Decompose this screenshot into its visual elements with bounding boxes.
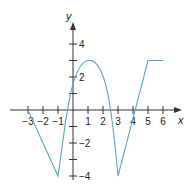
x-tick-label: 6 xyxy=(160,116,166,127)
y-tick-label: 4 xyxy=(79,39,85,50)
x-axis-label: x xyxy=(177,114,184,126)
x-tick-label: 2 xyxy=(100,116,106,127)
y-axis-label: y xyxy=(65,10,73,22)
y-tick-label: 2 xyxy=(79,72,85,83)
x-tick-label: 3 xyxy=(115,116,121,127)
y-tick-label: −4 xyxy=(79,171,91,182)
x-tick-label: −2 xyxy=(37,116,49,127)
x-axis-arrow-icon xyxy=(174,107,182,113)
y-tick-label: −2 xyxy=(79,138,91,149)
x-tick-label: −3 xyxy=(22,116,34,127)
y-axis-arrow-icon xyxy=(70,22,76,30)
x-tick-label: −1 xyxy=(52,116,64,127)
x-ticks: −3−2−1123456 xyxy=(22,106,166,127)
x-tick-label: 1 xyxy=(85,116,91,127)
x-tick-label: 5 xyxy=(145,116,151,127)
function-graph: x y −3−2−1123456 −4−224 xyxy=(0,0,194,194)
